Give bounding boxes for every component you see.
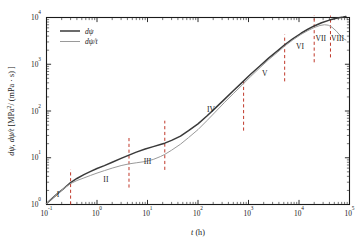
x-axis-title: t (h) (191, 228, 205, 237)
region-label-iv: IV (207, 105, 216, 114)
legend-label: dψ/t (85, 37, 99, 46)
region-label-viii: VIII (331, 34, 345, 43)
region-label-iii: III (144, 157, 152, 166)
chart-canvas: IIIIIIIVVVIVIIVIII 10-110010110210310410… (0, 0, 363, 249)
region-label-vi: VI (296, 42, 304, 51)
plot-background (0, 0, 363, 249)
chart-figure: IIIIIIIVVVIVIIVIII 10-110010110210310410… (0, 0, 363, 249)
legend-label: dψ (85, 27, 94, 36)
region-label-ii: II (103, 175, 109, 184)
region-label-v: V (262, 69, 268, 78)
region-label-vii: VII (316, 34, 327, 43)
y-axis-title: dψ, dψ/t [MPa2/ (mPa · s) ] (6, 66, 16, 156)
